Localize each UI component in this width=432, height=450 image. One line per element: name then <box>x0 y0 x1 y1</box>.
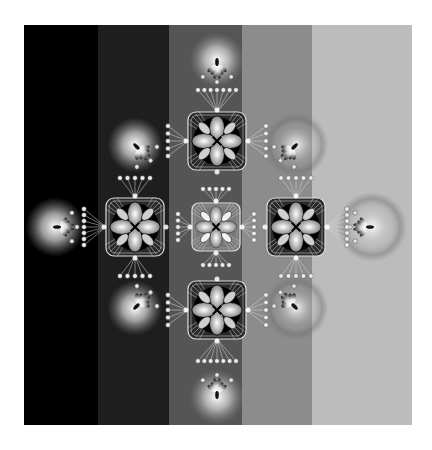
medallion-bottom <box>184 277 251 344</box>
glow-orb-lower-right <box>264 276 329 341</box>
medallion-right <box>263 194 330 261</box>
glow-orb-left <box>25 197 85 257</box>
glow-orb-upper-right <box>264 113 329 178</box>
medallion-left <box>102 194 169 261</box>
medallion-center <box>188 199 245 256</box>
fractal-artwork <box>24 25 412 425</box>
glow-orb-bottom <box>189 369 244 424</box>
medallion-top <box>184 108 251 175</box>
glow-orb-top <box>189 32 244 87</box>
artwork-canvas <box>24 25 412 425</box>
